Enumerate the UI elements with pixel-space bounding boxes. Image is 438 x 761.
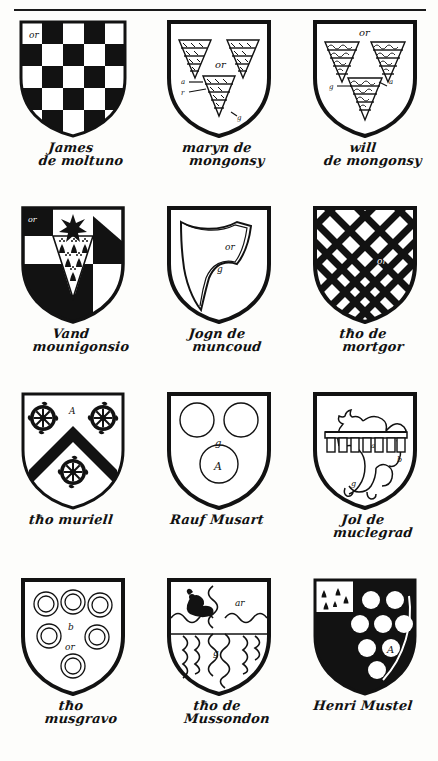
header-rule: [14, 9, 426, 11]
shield-cell-2[interactable]: or a r g maryn de mongonsy: [146, 14, 292, 200]
shield-cell-5[interactable]: or g Jogn de muncoud: [146, 200, 292, 386]
tincture-label-g: g: [213, 648, 219, 658]
shield-caption-7: tħo muriell: [3, 513, 143, 526]
shield-caption-1: James de moltuno: [3, 141, 143, 167]
caption-line-2: mounigonsio: [18, 340, 143, 354]
shield-5-drawing: or g: [159, 202, 279, 326]
shield-cell-3[interactable]: or g a will de mongonsy: [292, 14, 438, 200]
shield-three-piles-nebuly[interactable]: or g a: [305, 16, 425, 140]
shield-three-roundels[interactable]: g A: [159, 388, 279, 512]
tincture-label-a: a: [371, 442, 375, 450]
shield-caption-10: tħo musgravo: [3, 699, 143, 725]
tincture-label-b: b: [397, 455, 402, 464]
shield-cell-9[interactable]: a b g Jol de muclegrad: [292, 386, 438, 572]
tincture-label-b: b: [68, 622, 74, 632]
tincture-label-or: or: [28, 215, 38, 224]
shield-caption-8: Rauf Musart: [149, 513, 289, 526]
caption-line-2: mortgor: [310, 340, 435, 354]
shield-cell-7[interactable]: A tħo muriell: [0, 386, 146, 572]
shield-cell-10[interactable]: b or tħo musgravo: [0, 572, 146, 758]
shield-caption-5: Jogn de muncoud: [149, 327, 289, 353]
shield-6-drawing: or: [305, 202, 425, 326]
shield-10-drawing: b or: [13, 574, 133, 698]
shield-six-annulets[interactable]: b or: [13, 574, 133, 698]
shield-caption-6: tħo de mortgor: [295, 327, 435, 353]
shield-lion-label[interactable]: a b g: [305, 388, 425, 512]
tincture-label-or: or: [215, 59, 227, 70]
shield-grid: or James de moltuno: [0, 14, 438, 758]
tincture-label-g: g: [351, 479, 356, 488]
shield-three-piles-vair[interactable]: or a r g: [159, 16, 279, 140]
tincture-label-a: A: [68, 406, 76, 416]
shield-cell-1[interactable]: or James de moltuno: [0, 14, 146, 200]
shield-caption-2: maryn de mongonsy: [149, 141, 289, 167]
tincture-label-g: g: [329, 83, 334, 91]
tincture-label-a: a: [389, 78, 393, 86]
shield-cell-8[interactable]: g A Rauf Musart: [146, 386, 292, 572]
shield-caption-12: Henri Mustel: [295, 699, 435, 712]
tincture-label-g: g: [215, 437, 221, 448]
shield-cell-11[interactable]: ar g tħo de Mussondon: [146, 572, 292, 758]
caption-line-2: mongonsy: [164, 154, 289, 168]
tincture-label-a: a: [181, 78, 185, 86]
tincture-label-g: g: [237, 114, 242, 122]
shield-caption-9: Jol de muclegrad: [295, 513, 435, 539]
tincture-label-or: or: [377, 256, 387, 266]
shield-3-drawing: or g a: [305, 16, 425, 140]
tincture-label-or: or: [65, 642, 75, 652]
tincture-label-a: A: [386, 644, 394, 655]
shield-1-drawing: or: [13, 16, 133, 140]
caption-line-2: Mussondon: [164, 712, 289, 726]
shield-8-drawing: g A: [159, 388, 279, 512]
shield-checky[interactable]: or: [13, 16, 133, 140]
tincture-label-or: or: [225, 242, 235, 252]
shield-caption-11: tħo de Mussondon: [149, 699, 289, 725]
shield-chevron-wheels[interactable]: A: [13, 388, 133, 512]
shield-cell-4[interactable]: or Vand mounigonsio: [0, 200, 146, 386]
tincture-label-or: or: [359, 27, 371, 38]
shield-caption-4: Vand mounigonsio: [3, 327, 143, 353]
caption-line-2: de mongonsy: [310, 154, 435, 168]
shield-quarterly-nebuly[interactable]: ar g: [159, 574, 279, 698]
shield-sable-plates[interactable]: A: [305, 574, 425, 698]
caption-line-1: Henri Mustel: [290, 699, 435, 713]
shield-2-drawing: or a r g: [159, 16, 279, 140]
shield-4-drawing: or: [13, 202, 133, 326]
shield-caption-3: will de mongonsy: [295, 141, 435, 167]
shield-12-drawing: A: [305, 574, 425, 698]
shield-9-drawing: a b g: [305, 388, 425, 512]
tincture-label-g: g: [217, 264, 223, 274]
shield-11-drawing: ar g: [159, 574, 279, 698]
shield-cell-6[interactable]: or tħo de mortgor: [292, 200, 438, 386]
caption-line-2: de moltuno: [18, 154, 143, 168]
shield-quarterly-estoile[interactable]: or: [13, 202, 133, 326]
manuscript-page: or James de moltuno: [0, 0, 438, 761]
tincture-label-ar: ar: [235, 598, 245, 608]
tincture-label-or: or: [29, 30, 39, 40]
shield-7-drawing: A: [13, 388, 133, 512]
caption-line-2: musgravo: [18, 712, 143, 726]
tincture-label-a: A: [213, 460, 222, 473]
shield-fretty[interactable]: or: [305, 202, 425, 326]
caption-line-2: muclegrad: [310, 526, 435, 540]
shield-maunch[interactable]: or g: [159, 202, 279, 326]
shield-cell-12[interactable]: A Henri Mustel: [292, 572, 438, 758]
caption-line-1: Rauf Musart: [144, 513, 289, 527]
caption-line-1: tħo muriell: [0, 513, 144, 527]
caption-line-2: muncoud: [164, 340, 289, 354]
